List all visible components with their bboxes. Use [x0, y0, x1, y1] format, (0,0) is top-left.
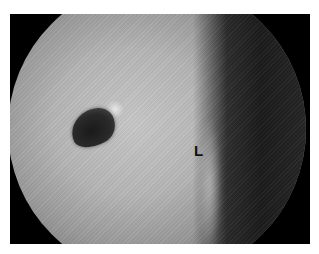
- image-frame: [10, 14, 310, 244]
- tissue-boundary: [193, 93, 235, 244]
- dark-region: [193, 14, 306, 244]
- endoscope-field: [10, 14, 306, 244]
- annotation-label: L: [194, 143, 203, 158]
